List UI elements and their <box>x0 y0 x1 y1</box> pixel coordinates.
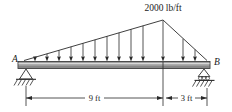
load-arrow <box>33 57 37 62</box>
load-arrow <box>93 40 97 62</box>
support-a-label: A <box>11 54 18 64</box>
roller-support-icon <box>193 69 215 87</box>
beam <box>18 62 210 69</box>
load-arrow <box>69 47 73 62</box>
load-arrow <box>129 29 133 61</box>
diagram-canvas: 2000 lb/ft A B 9 ft 3 ft 9 ft 3 ft <box>0 0 232 112</box>
triangular-load-outline <box>24 20 207 61</box>
load-magnitude-label: 2000 lb/ft <box>144 3 182 13</box>
load-arrow <box>181 39 185 62</box>
load-arrow <box>141 26 145 62</box>
pin-support-icon <box>14 69 36 86</box>
load-arrow <box>193 50 197 62</box>
dimension-label-3ft-front: 3 ft <box>181 93 193 103</box>
dimension-label-9ft-front: 9 ft <box>89 93 101 103</box>
load-arrow <box>45 54 49 62</box>
load-arrow-group <box>33 21 197 62</box>
support-b-label: B <box>214 57 220 67</box>
load-arrow <box>57 50 61 61</box>
load-arrow <box>117 33 121 62</box>
load-arrow <box>161 21 165 62</box>
load-arrow <box>81 43 85 61</box>
beam-load-diagram: 2000 lb/ft A B 9 ft 3 ft 9 ft 3 ft <box>0 0 232 112</box>
roller-wheels <box>199 77 210 80</box>
load-arrow <box>105 36 109 61</box>
